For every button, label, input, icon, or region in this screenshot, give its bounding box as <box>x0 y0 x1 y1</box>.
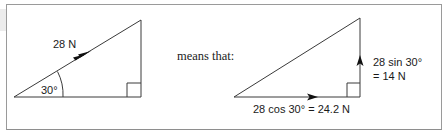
right-triangle <box>234 18 360 97</box>
right-angle-marker-right <box>347 83 360 97</box>
force-label: 28 N <box>53 38 76 50</box>
connector-text: means that: <box>177 49 234 63</box>
vertical-component-label-line1: 28 sin 30° <box>373 56 422 68</box>
angle-arc <box>58 72 64 98</box>
force-resolution-diagram: 28 N 30° means that: 28 cos 30° = 24.2 N… <box>0 0 448 135</box>
horizontal-component-label: 28 cos 30° = 24.2 N <box>253 103 350 115</box>
vertical-component-label-line2: = 14 N <box>373 70 406 82</box>
double-arrow-icon <box>73 51 91 61</box>
right-triangle-hypotenuse <box>234 18 360 97</box>
right-angle-marker-left <box>127 83 141 97</box>
angle-label: 30° <box>41 84 58 96</box>
